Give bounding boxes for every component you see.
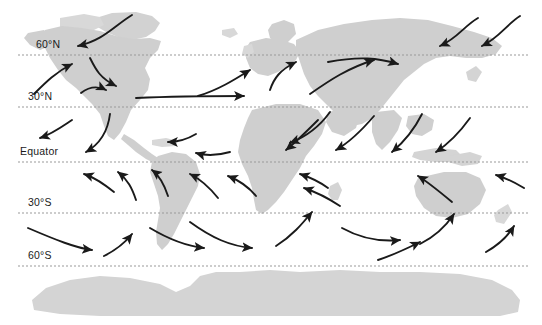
latitude-label-equator: Equator xyxy=(20,145,58,157)
latitude-label-60n: 60°N xyxy=(36,38,60,50)
latitude-label-60s: 60°S xyxy=(28,249,52,261)
madagascar-shape xyxy=(328,182,342,200)
wind-arrow-trade-s-6 xyxy=(300,174,328,188)
australia-shape xyxy=(414,172,486,218)
new-zealand-shape xyxy=(494,204,512,224)
wind-arrow-westerly-s-9 xyxy=(486,226,514,252)
india-shape xyxy=(372,110,402,150)
wind-arrow-westerly-s-8 xyxy=(378,242,420,260)
wind-arrow-trade-s-2 xyxy=(118,172,136,200)
wind-arrow-trade-s-1 xyxy=(84,174,114,192)
wind-circulation-figure: 60°N 30°N Equator 30°S 60°S xyxy=(0,0,542,325)
wind-arrow-trade-s-9 xyxy=(496,175,524,188)
wind-arrow-westerly-s-6 xyxy=(342,228,400,241)
iceland-shape xyxy=(222,28,238,38)
japan-shape xyxy=(466,66,482,82)
latitude-label-30n: 30°N xyxy=(28,90,52,102)
wind-arrow-westerly-n-5 xyxy=(198,70,250,96)
arabian-peninsula-shape xyxy=(326,108,360,136)
latitude-label-30s: 30°S xyxy=(28,196,52,208)
wind-arrow-trade-n-1 xyxy=(40,120,72,138)
wind-arrow-westerly-n-4 xyxy=(136,96,244,98)
wind-arrow-westerly-s-2 xyxy=(104,234,132,256)
central-america-shape xyxy=(121,134,158,163)
antarctica-shape xyxy=(32,270,520,316)
europe-shape xyxy=(246,38,300,76)
wind-arrow-westerly-s-7 xyxy=(420,214,454,244)
wind-arrow-trade-n-9 xyxy=(436,118,470,152)
wind-arrow-westerly-s-1 xyxy=(28,228,92,250)
north-america-shape xyxy=(44,26,161,140)
south-america-shape xyxy=(150,152,200,250)
world-map xyxy=(0,0,542,325)
wind-arrow-trade-n-4 xyxy=(196,152,230,155)
wind-arrow-westerly-s-4 xyxy=(190,222,252,248)
landmass-layer xyxy=(24,12,520,316)
africa-shape xyxy=(238,104,326,214)
wind-arrow-westerly-s-5 xyxy=(276,212,312,246)
